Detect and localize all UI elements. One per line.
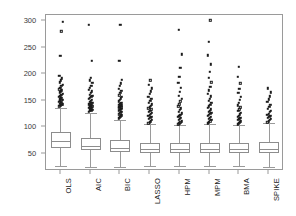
y-tick-label: 100 (24, 122, 36, 131)
x-tick-mark (178, 170, 179, 174)
x-category-label-bic: BIC (123, 178, 132, 191)
x-tick-mark (89, 170, 90, 174)
outlier-point (270, 109, 272, 111)
outlier-point (267, 108, 269, 110)
x-tick-mark (59, 170, 60, 174)
median-line (259, 149, 279, 150)
y-tick-label: 300 (24, 16, 36, 25)
boxplot-chart: 50100150200250300 OLSAICBICLASSOHPMMPMBM… (0, 0, 296, 216)
x-category-label-lasso: LASSO (153, 178, 162, 204)
outlier-point (270, 91, 272, 93)
plot-area (46, 15, 282, 169)
x-category-label-aic: AIC (94, 178, 103, 191)
plot-frame (45, 14, 283, 170)
boxplot-spike (46, 15, 282, 169)
outlier-point (270, 118, 272, 120)
cap-lower (263, 167, 275, 168)
x-category-label-hpm: HPM (183, 178, 192, 195)
outlier-point (269, 115, 271, 117)
x-category-label-mpm: MPM (213, 178, 222, 196)
outlier-point (267, 87, 269, 89)
y-tick-label: 200 (24, 69, 36, 78)
whisker-lower (269, 153, 270, 167)
x-tick-mark (238, 170, 239, 174)
cap-upper (263, 123, 275, 124)
outlier-point (266, 101, 268, 103)
y-tick-label: 50 (28, 149, 36, 158)
y-tick-label: 150 (24, 95, 36, 104)
x-tick-mark (119, 170, 120, 174)
outlier-point (269, 103, 271, 105)
y-tick-label: 250 (24, 42, 36, 51)
x-category-label-ols: OLS (64, 178, 73, 194)
outlier-point (268, 106, 270, 108)
x-tick-mark (208, 170, 209, 174)
box-iqr (259, 142, 279, 153)
whisker-upper (269, 123, 270, 142)
outlier-point (268, 95, 270, 97)
x-category-label-bma: BMA (242, 178, 251, 195)
y-axis: 50100150200250300 (0, 14, 45, 170)
x-tick-mark (268, 170, 269, 174)
x-tick-mark (149, 170, 150, 174)
outlier-point (267, 98, 269, 100)
x-category-label-spike: SPIKE (272, 178, 281, 201)
